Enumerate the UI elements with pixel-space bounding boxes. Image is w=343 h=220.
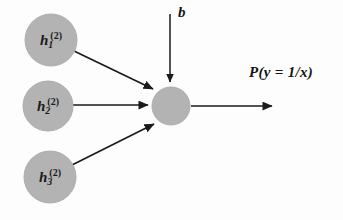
edge-h3-to-output [72,124,154,165]
bias-label: b [178,4,186,21]
edge-h1-to-output [74,51,153,89]
input-node-h2-label: h2(2) [37,96,59,116]
input-node-h1-label: h1(2) [40,30,62,50]
input-node-h1-superscript: (2) [50,30,62,41]
input-node-h2-superscript: (2) [47,96,59,107]
diagram-canvas: h1(2) h2(2) h3(2) b P(y = 1/x) [0,0,343,220]
input-node-h3-superscript: (2) [49,167,61,178]
output-probability-label: P(y = 1/x) [249,64,313,81]
output-node [152,87,190,125]
input-node-h3-label: h3(2) [39,167,61,187]
